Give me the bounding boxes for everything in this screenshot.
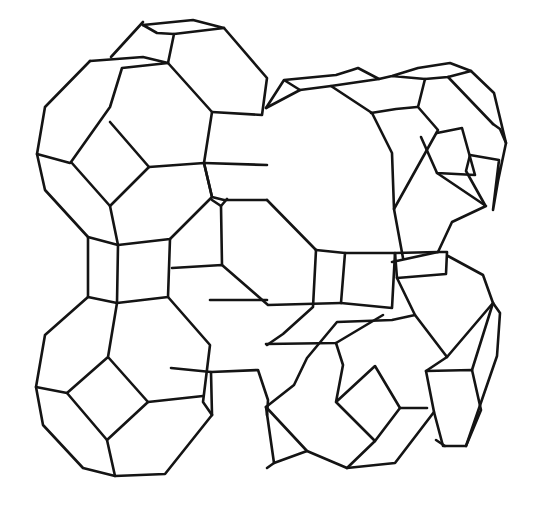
zeolite-framework-drawing: [0, 0, 534, 510]
framework-edge: [211, 370, 268, 415]
framework-edge: [107, 440, 115, 476]
framework-edge: [266, 315, 447, 468]
framework-edge: [341, 253, 395, 308]
framework-edge: [148, 396, 203, 402]
framework-edge: [204, 163, 267, 165]
framework-edge: [36, 297, 88, 393]
framework-edge: [394, 79, 438, 209]
framework-edge: [336, 343, 400, 441]
framework-edge: [71, 57, 168, 206]
framework-edge: [267, 200, 316, 250]
framework-edge: [168, 63, 212, 163]
framework-edge: [204, 163, 267, 200]
framework-edge: [379, 63, 471, 79]
framework-edge: [143, 20, 224, 63]
framework-edge: [331, 86, 403, 258]
framework-edge: [221, 199, 227, 265]
framework-edge: [466, 71, 506, 210]
framework-edge: [111, 22, 143, 57]
framework-edge: [212, 28, 267, 115]
framework-edge: [266, 315, 383, 344]
framework-edge: [447, 256, 493, 357]
framework-edge: [347, 441, 375, 468]
framework-edge: [110, 163, 212, 245]
framework-edge: [267, 250, 316, 345]
framework-edge: [316, 250, 345, 303]
framework-edge: [88, 237, 118, 303]
framework-edge: [117, 239, 170, 303]
framework-edge: [274, 451, 307, 463]
framework-edge: [143, 25, 174, 34]
framework-edge: [171, 368, 211, 372]
framework-edge: [37, 154, 70, 163]
framework-edges: [36, 20, 506, 476]
framework-edge: [36, 387, 212, 476]
framework-edge: [212, 200, 221, 206]
framework-edge: [371, 107, 417, 113]
framework-edge: [436, 303, 500, 446]
framework-edge: [472, 303, 493, 370]
framework-edge: [437, 173, 486, 252]
framework-edge: [67, 303, 148, 440]
framework-edge: [266, 68, 379, 108]
